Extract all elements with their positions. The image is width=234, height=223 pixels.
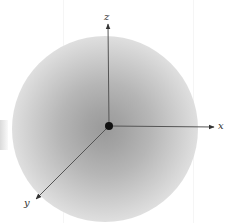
z-axis-label: z [104,12,109,22]
y-axis [36,126,109,199]
coordinate-axes [0,0,234,223]
x-axis-label: x [218,121,224,131]
z-axis [108,24,109,126]
nucleus-dot [105,122,113,130]
y-axis-label: y [24,198,30,208]
x-axis [109,126,214,127]
diagram-canvas: z x y [0,0,234,223]
